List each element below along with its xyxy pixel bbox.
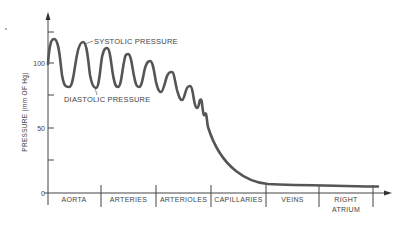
y-axis: 100 50 0 PRESSURE (mm OF Hg): [21, 12, 54, 205]
pressure-chart: 100 50 0 PRESSURE (mm OF Hg) AORTA ARTER…: [0, 0, 412, 227]
region-label-right-atrium-line2: ATRIUM: [332, 206, 360, 213]
y-axis-arrow-icon: [46, 12, 51, 20]
region-label-right-atrium-line1: RIGHT: [334, 196, 358, 203]
region-label-arterioles: ARTERIOLES: [160, 196, 207, 203]
pressure-curve: [48, 39, 378, 187]
y-axis-title: PRESSURE (mm OF Hg): [21, 72, 29, 151]
region-label-veins: VEINS: [281, 196, 304, 203]
region-label-arteries: ARTERIES: [110, 196, 147, 203]
systolic-leader-line: [85, 41, 93, 44]
region-label-aorta: AORTA: [62, 196, 87, 203]
systolic-pressure-label: SYSTOLIC PRESSURE: [94, 37, 178, 46]
diastolic-pressure-label: DIASTOLIC PRESSURE: [64, 95, 150, 104]
y-tick-100: 100: [33, 60, 45, 67]
region-label-capillaries: CAPILLARIES: [214, 196, 262, 203]
y-tick-50: 50: [37, 125, 45, 132]
x-axis-arrow-icon: [384, 191, 392, 196]
x-axis: AORTA ARTERIES ARTERIOLES CAPILLARIES VE…: [44, 185, 392, 213]
